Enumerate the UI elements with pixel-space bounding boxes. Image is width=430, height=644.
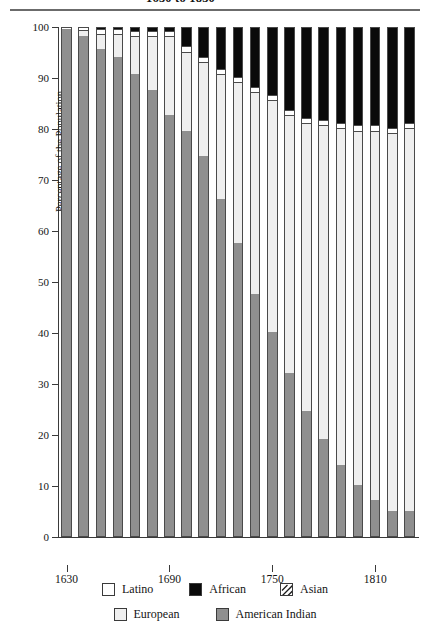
stacked-bar (318, 27, 329, 537)
bar-segment-european (114, 34, 123, 57)
bar-segment-latino (217, 69, 226, 74)
bar-segment-african (131, 27, 140, 31)
bar-segment-amerindian (337, 465, 346, 536)
y-axis-tick (52, 231, 58, 232)
european-swatch (114, 608, 127, 621)
y-axis-tick (52, 486, 58, 487)
legend-item: African (189, 582, 246, 597)
stacked-bar (370, 27, 381, 537)
legend-row-primary: LatinoAfricanAsian (0, 578, 430, 600)
stacked-bar (147, 27, 158, 537)
latino-swatch (102, 583, 115, 596)
bar-segment-amerindian (388, 511, 397, 537)
chart-legend: LatinoAfricanAsian EuropeanAmerican Indi… (0, 578, 430, 638)
bar-segment-african (97, 27, 106, 29)
bar-segment-african (234, 27, 243, 77)
bar-segment-latino (62, 27, 71, 29)
bar-segment-amerindian (302, 411, 311, 536)
bar-segment-amerindian (182, 131, 191, 536)
stacked-bar (250, 27, 261, 537)
y-axis-tick (52, 435, 58, 436)
bar-segment-amerindian (319, 439, 328, 536)
bar-segment-latino (371, 125, 380, 130)
legend-item: American Indian (216, 607, 317, 622)
bar-segment-latino (114, 29, 123, 34)
stacked-bar (301, 27, 312, 537)
y-axis-tick-label: 70 (38, 175, 49, 186)
y-axis-tick-label: 40 (38, 328, 49, 339)
bar-segment-european (285, 115, 294, 373)
bar-segment-european (371, 131, 380, 501)
y-axis-tick (52, 78, 58, 79)
bar-segment-amerindian (114, 57, 123, 536)
bar-segment-european (148, 36, 157, 90)
legend-label: Latino (122, 582, 153, 597)
plot-area: 0102030405060708090100 Percentage of the… (58, 27, 418, 537)
stacked-bar (284, 27, 295, 537)
bar-segment-latino (319, 120, 328, 125)
x-axis-line (58, 537, 419, 538)
bar-segment-amerindian (354, 485, 363, 536)
y-axis-tick (52, 333, 58, 334)
bar-segment-african (354, 27, 363, 125)
bar-segment-african (302, 27, 311, 118)
bar-segment-african (165, 27, 174, 31)
bar-segment-african (285, 27, 294, 110)
x-axis-tick (169, 565, 170, 572)
bar-segment-european (182, 52, 191, 131)
bar-segment-european (354, 131, 363, 485)
stacked-bar (78, 27, 89, 537)
bar-segment-european (251, 92, 260, 293)
bar-segment-african (148, 27, 157, 31)
stacked-bar (61, 27, 72, 537)
bar-segment-amerindian (62, 29, 71, 536)
bar-segment-african (217, 27, 226, 69)
bar-segment-amerindian (251, 294, 260, 536)
legend-label: European (134, 607, 180, 622)
legend-label: Asian (300, 582, 328, 597)
bar-segment-amerindian (97, 49, 106, 536)
bar-segment-european (199, 62, 208, 156)
bar-segment-amerindian (199, 156, 208, 536)
y-axis-tick (52, 537, 58, 538)
bar-segment-african (251, 27, 260, 87)
bar-segment-european (97, 34, 106, 49)
y-axis-tick (52, 282, 58, 283)
bar-segment-european (165, 36, 174, 115)
bar-segment-latino (354, 125, 363, 130)
bar-segment-african (319, 27, 328, 120)
bar-segment-african (371, 27, 380, 125)
bar-segment-amerindian (217, 199, 226, 536)
y-axis-tick-label: 10 (38, 481, 49, 492)
bar-segment-latino (165, 31, 174, 36)
bar-segment-amerindian (268, 332, 277, 536)
amerindian-swatch (216, 608, 229, 621)
bar-segment-latino (148, 31, 157, 36)
bar-segment-african (388, 27, 397, 128)
stacked-bar (233, 27, 244, 537)
bar-segment-european (302, 123, 311, 411)
y-axis-tick-label: 30 (38, 379, 49, 390)
african-swatch (189, 583, 202, 596)
stacked-bar (216, 27, 227, 537)
stacked-bar (113, 27, 124, 537)
bar-segment-european (268, 100, 277, 332)
bar-segment-african (337, 27, 346, 123)
y-axis-tick (52, 27, 58, 28)
legend-item: Latino (102, 582, 153, 597)
bar-segment-african (199, 27, 208, 57)
bar-segment-amerindian (405, 511, 414, 537)
x-axis-tick (272, 565, 273, 572)
stacked-bar (404, 27, 415, 537)
bar-segment-african (268, 27, 277, 95)
bar-segment-latino (388, 128, 397, 133)
legend-row-secondary: EuropeanAmerican Indian (0, 603, 430, 625)
bar-segment-european (388, 133, 397, 510)
bar-segment-amerindian (131, 74, 140, 536)
y-axis-tick-label: 90 (38, 73, 49, 84)
bar-segment-amerindian (285, 373, 294, 536)
chart-title: 1630 to 1830 (146, 0, 215, 6)
bar-segment-african (405, 27, 414, 123)
bar-segment-european (234, 82, 243, 243)
bar-segment-european (131, 36, 140, 74)
